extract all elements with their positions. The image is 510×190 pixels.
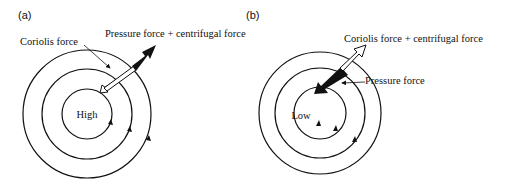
coriolis-force-arrow-a: [100, 66, 136, 93]
low-pressure-label: Low: [291, 110, 310, 121]
coriolis-centrifugal-label-b: Coriolis force + centrifugal force: [344, 33, 483, 44]
flow-direction-arrows-a: [108, 119, 151, 141]
panel-label-a: (a): [18, 9, 31, 21]
coriolis-force-label-a: Coriolis force: [20, 36, 78, 47]
panel-label-b: (b): [246, 9, 259, 21]
low-pressure-isobars: [259, 52, 381, 174]
high-pressure-label: High: [77, 109, 98, 120]
coriolis-leader-line-a: [84, 45, 110, 68]
pressure-centrifugal-arrow-a: [132, 45, 156, 71]
pressure-centrifugal-label-a: Pressure force + centrifugal force: [105, 28, 246, 39]
coriolis-centrifugal-arrow-b: [340, 45, 366, 71]
pressure-leader-line-b: [342, 82, 365, 83]
diagram-canvas: [0, 0, 510, 190]
pressure-force-label-b: Pressure force: [365, 75, 425, 86]
